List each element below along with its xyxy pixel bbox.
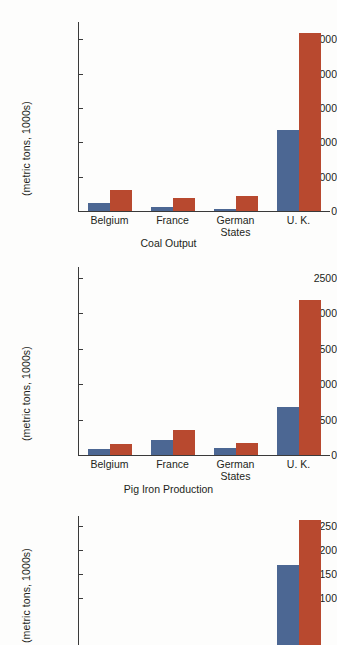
bar xyxy=(277,407,299,455)
y-axis-title: (metric tons, 1000s) xyxy=(20,346,32,441)
y-axis-tick-mark xyxy=(78,384,83,385)
bar xyxy=(110,444,132,455)
x-axis-category-label: U. K. xyxy=(267,459,330,471)
y-axis-tick-mark xyxy=(78,278,83,279)
y-axis-tick-mark xyxy=(78,420,83,421)
x-axis-category-label: U. K. xyxy=(267,215,330,227)
bar xyxy=(151,207,173,211)
bar xyxy=(277,130,299,211)
x-axis-category-label: France xyxy=(141,459,204,471)
x-axis-category-label: Belgium xyxy=(78,215,141,227)
y-axis-tick-mark xyxy=(78,349,83,350)
y-axis-tick-mark xyxy=(78,574,83,575)
bar xyxy=(299,33,321,211)
bar xyxy=(88,449,110,455)
x-axis-category-label: Belgium xyxy=(78,459,141,471)
y-axis-tick-mark xyxy=(78,526,83,527)
y-axis-tick-mark xyxy=(78,142,83,143)
y-axis-tick-mark xyxy=(78,455,83,456)
y-axis-line xyxy=(78,22,79,211)
y-axis-line xyxy=(78,267,79,455)
bar xyxy=(236,196,258,211)
chart-title: Pig Iron Production xyxy=(0,483,337,495)
y-axis-tick-mark xyxy=(78,74,83,75)
y-axis-title: (metric tons, 1000s) xyxy=(20,548,32,643)
chart-panel-third-cropped: (metric tons, 1000s)100150200250 xyxy=(0,503,337,645)
y-axis-tick-mark xyxy=(78,39,83,40)
bar xyxy=(151,440,173,455)
bar xyxy=(173,198,195,211)
bar xyxy=(277,565,299,645)
y-axis-tick-mark xyxy=(78,177,83,178)
bar xyxy=(88,203,110,211)
chart-panel-coal-output: (metric tons, 1000s)010,00020,00030,0004… xyxy=(0,0,337,255)
figure-page: (metric tons, 1000s)010,00020,00030,0004… xyxy=(0,0,337,645)
y-axis-line xyxy=(78,516,79,645)
x-axis-category-label: German States xyxy=(204,215,267,238)
y-axis-tick-mark xyxy=(78,211,83,212)
y-axis-tick-mark xyxy=(78,598,83,599)
x-axis-category-label: German States xyxy=(204,459,267,482)
x-axis-category-label: France xyxy=(141,215,204,227)
bar xyxy=(214,448,236,455)
y-axis-tick-label: 2500 xyxy=(265,273,337,284)
bar xyxy=(236,443,258,455)
bar xyxy=(299,300,321,455)
y-axis-title: (metric tons, 1000s) xyxy=(20,101,32,196)
bar xyxy=(173,430,195,455)
chart-panel-pig-iron-production: (metric tons, 1000s)05001000150020002500… xyxy=(0,255,337,503)
y-axis-tick-mark xyxy=(78,108,83,109)
bar xyxy=(110,190,132,211)
y-axis-tick-mark xyxy=(78,313,83,314)
y-axis-tick-mark xyxy=(78,550,83,551)
bar xyxy=(214,209,236,211)
chart-title: Coal Output xyxy=(0,237,337,249)
bar xyxy=(299,520,321,645)
